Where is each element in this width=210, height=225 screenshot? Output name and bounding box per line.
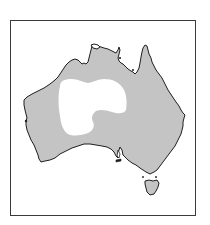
wellesley-island xyxy=(132,69,134,71)
bass-strait-island xyxy=(142,176,144,178)
gulf-inlet xyxy=(117,150,120,158)
groote-eylandt xyxy=(119,57,121,59)
kangaroo-island xyxy=(116,159,121,162)
bass-strait-island xyxy=(155,176,157,178)
tasmania xyxy=(145,180,159,195)
west-coast-island xyxy=(25,120,27,122)
australia-map xyxy=(0,0,210,225)
